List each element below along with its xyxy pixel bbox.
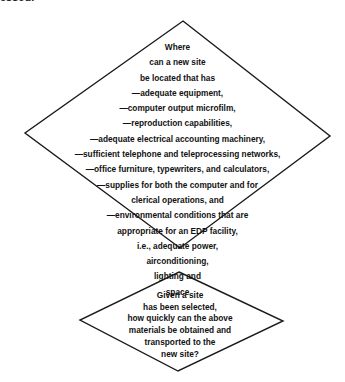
decision1-line: clerical operations, and — [25, 193, 330, 208]
decision1-line: be located that has — [25, 71, 330, 86]
decision1-line: can a new site — [25, 55, 330, 70]
decision2-line: materials be obtained and — [80, 325, 280, 337]
decision1-line: —adequate electrical accounting machiner… — [25, 132, 330, 147]
decision2-text: Given a site has been selected, how quic… — [80, 290, 280, 360]
decision1-line: —sufficient telephone and teleprocessing… — [25, 147, 330, 162]
decision1-text: Where can a new site be located that has… — [25, 40, 330, 300]
decision2-line: how quickly can the above — [80, 313, 280, 325]
decision1-line: lighting and — [25, 269, 330, 284]
decision2-line: Given a site — [80, 290, 280, 302]
decision1-line: —reproduction capabilities, — [25, 116, 330, 131]
decision1-line: i.e., adequate power, — [25, 239, 330, 254]
decision1-line: Where — [25, 40, 330, 55]
decision1-line: appropriate for an EDP facility, — [25, 224, 330, 239]
decision2-line: transported to the — [80, 337, 280, 349]
decision1-line: —adequate equipment, — [25, 86, 330, 101]
decision1-line: —computer output microfilm, — [25, 101, 330, 116]
decision1-line: airconditioning, — [25, 254, 330, 269]
decision2-line: has been selected, — [80, 302, 280, 314]
decision1-line: —environmental conditions that are — [25, 208, 330, 223]
decision2-line: new site? — [80, 349, 280, 361]
decision1-line: —supplies for both the computer and for — [25, 178, 330, 193]
decision1-line: —office furniture, typewriters, and calc… — [25, 162, 330, 177]
